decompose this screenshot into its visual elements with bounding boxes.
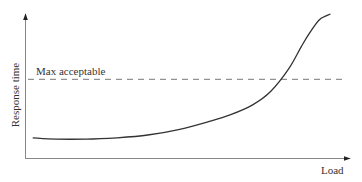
chart-canvas [0,0,362,182]
x-axis-label: Load [321,165,344,176]
max-acceptable-label: Max acceptable [36,66,105,77]
y-axis-label: Response time [10,63,21,127]
